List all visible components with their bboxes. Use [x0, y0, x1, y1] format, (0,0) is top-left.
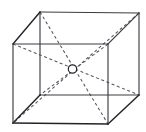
cube-figure: Line drawing of a cube in oblique parall… — [0, 0, 146, 132]
cube-diagram-svg — [0, 0, 146, 132]
front-bottom-edge — [13, 123, 108, 124]
body-centre-marker — [68, 65, 76, 73]
